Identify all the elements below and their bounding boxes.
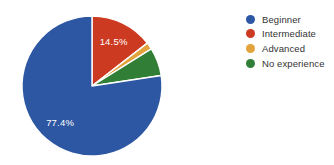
legend-swatch-icon bbox=[246, 29, 255, 38]
legend-label: Beginner bbox=[262, 14, 301, 25]
legend-label: Advanced bbox=[262, 43, 305, 54]
pie-chart-card: 14.5%77.4% BeginnerIntermediateAdvancedN… bbox=[0, 0, 334, 165]
slice-label-intermediate: 14.5% bbox=[100, 36, 128, 47]
legend-item-no-experience: No experience bbox=[246, 56, 325, 71]
slice-label-beginner: 77.4% bbox=[46, 117, 74, 128]
legend-item-advanced: Advanced bbox=[246, 41, 325, 56]
legend-swatch-icon bbox=[246, 15, 255, 24]
legend-swatch-icon bbox=[246, 59, 255, 68]
legend-label: Intermediate bbox=[262, 28, 316, 39]
pie-chart: 14.5%77.4% bbox=[0, 0, 240, 165]
legend-swatch-icon bbox=[246, 44, 255, 53]
chart-legend: BeginnerIntermediateAdvancedNo experienc… bbox=[246, 12, 325, 70]
legend-item-intermediate: Intermediate bbox=[246, 27, 325, 42]
legend-label: No experience bbox=[262, 58, 325, 69]
legend-item-beginner: Beginner bbox=[246, 12, 325, 27]
